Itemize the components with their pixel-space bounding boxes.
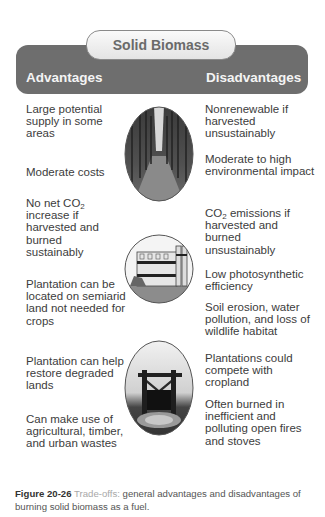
tree-plantation-image: [124, 106, 194, 202]
figure-caption: Figure 20-26 Trade-offs: general advanta…: [15, 488, 315, 513]
disadvantage-item: Often burned in inefficient and pollutin…: [205, 398, 320, 447]
diagram-title: Solid Biomass: [86, 30, 236, 60]
disadvantage-item: Moderate to high environmental impact: [205, 153, 315, 177]
disadvantages-header: Disadvantages: [206, 70, 301, 85]
caption-label: Trade-offs:: [74, 488, 120, 499]
advantage-item: Moderate costs: [26, 166, 126, 178]
open-fire-cooking-image: [124, 340, 194, 436]
biomass-power-plant-image: [124, 234, 194, 304]
advantage-item: Can make use of agricultural, timber, an…: [26, 413, 136, 450]
disadvantage-item-co2: CO2 emissions ifharvested andburnedunsus…: [205, 207, 315, 256]
disadvantage-item: Low photosynthetic efficiency: [205, 268, 315, 292]
disadvantage-item: Soil erosion, water pollution, and loss …: [205, 301, 315, 338]
advantage-item: Plantation can be located on semiarid la…: [26, 278, 126, 327]
disadvantage-item: Nonrenewable if harvested unsustainably: [205, 103, 315, 140]
advantage-item: Plantation can help restore degraded lan…: [26, 355, 126, 392]
advantages-header: Advantages: [26, 70, 103, 85]
disadvantage-item: Plantations could compete with cropland: [205, 352, 315, 389]
advantage-item: Large potential supply in some areas: [26, 103, 126, 140]
advantage-item-co2: No net CO2increase ifharvested andburned…: [26, 197, 126, 258]
figure-number: Figure 20-26: [15, 488, 72, 499]
